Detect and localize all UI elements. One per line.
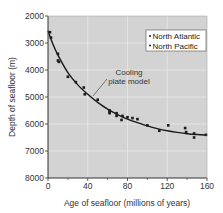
data-point <box>146 124 149 127</box>
data-point <box>136 118 139 121</box>
data-point <box>82 86 85 89</box>
legend-label-north-pacific: North Pacific <box>153 42 198 51</box>
data-point <box>75 81 78 84</box>
data-point <box>115 115 118 118</box>
x-tick-label: 160 <box>200 181 214 191</box>
x-axis-title: Age of seafloor (millions of years) <box>64 198 190 208</box>
data-point <box>121 115 124 118</box>
data-point <box>67 75 70 78</box>
annotation-line-2: plate model <box>108 77 150 86</box>
data-point <box>193 132 196 135</box>
data-point <box>167 124 170 127</box>
legend: North Atlantic North Pacific <box>146 30 206 51</box>
x-tick-label: 40 <box>83 181 93 191</box>
x-tick-label: 120 <box>160 181 174 191</box>
y-tick-label: 2000 <box>25 11 44 21</box>
data-point <box>185 131 188 134</box>
data-point <box>115 112 118 115</box>
x-tick-label: 80 <box>123 181 133 191</box>
data-point <box>57 53 60 56</box>
y-tick-label: 7000 <box>25 146 44 156</box>
data-point <box>193 136 196 139</box>
annotation-line-1: Cooling <box>115 68 142 77</box>
legend-label-north-atlantic: North Atlantic <box>153 32 201 41</box>
data-point <box>131 117 134 120</box>
y-tick-label: 8000 <box>25 173 44 183</box>
y-tick-label: 6000 <box>25 119 44 129</box>
data-point <box>120 119 123 122</box>
y-tick-label: 5000 <box>25 92 44 102</box>
x-tick-label: 0 <box>46 181 51 191</box>
y-axis-title: Depth of seafloor (m) <box>7 57 17 137</box>
data-point <box>126 116 129 119</box>
data-point <box>50 36 53 39</box>
data-point <box>58 61 61 64</box>
y-tick-label: 4000 <box>25 65 44 75</box>
seafloor-depth-chart: 040801201602000300040005000600070008000 … <box>0 0 223 213</box>
data-point <box>108 112 111 115</box>
legend-marker-north-atlantic <box>149 35 151 37</box>
data-point <box>184 127 187 130</box>
data-point <box>96 98 99 101</box>
data-point <box>158 129 161 132</box>
data-point <box>49 31 52 34</box>
data-point <box>83 93 86 96</box>
y-tick-label: 3000 <box>25 38 44 48</box>
legend-marker-north-pacific <box>149 45 151 47</box>
